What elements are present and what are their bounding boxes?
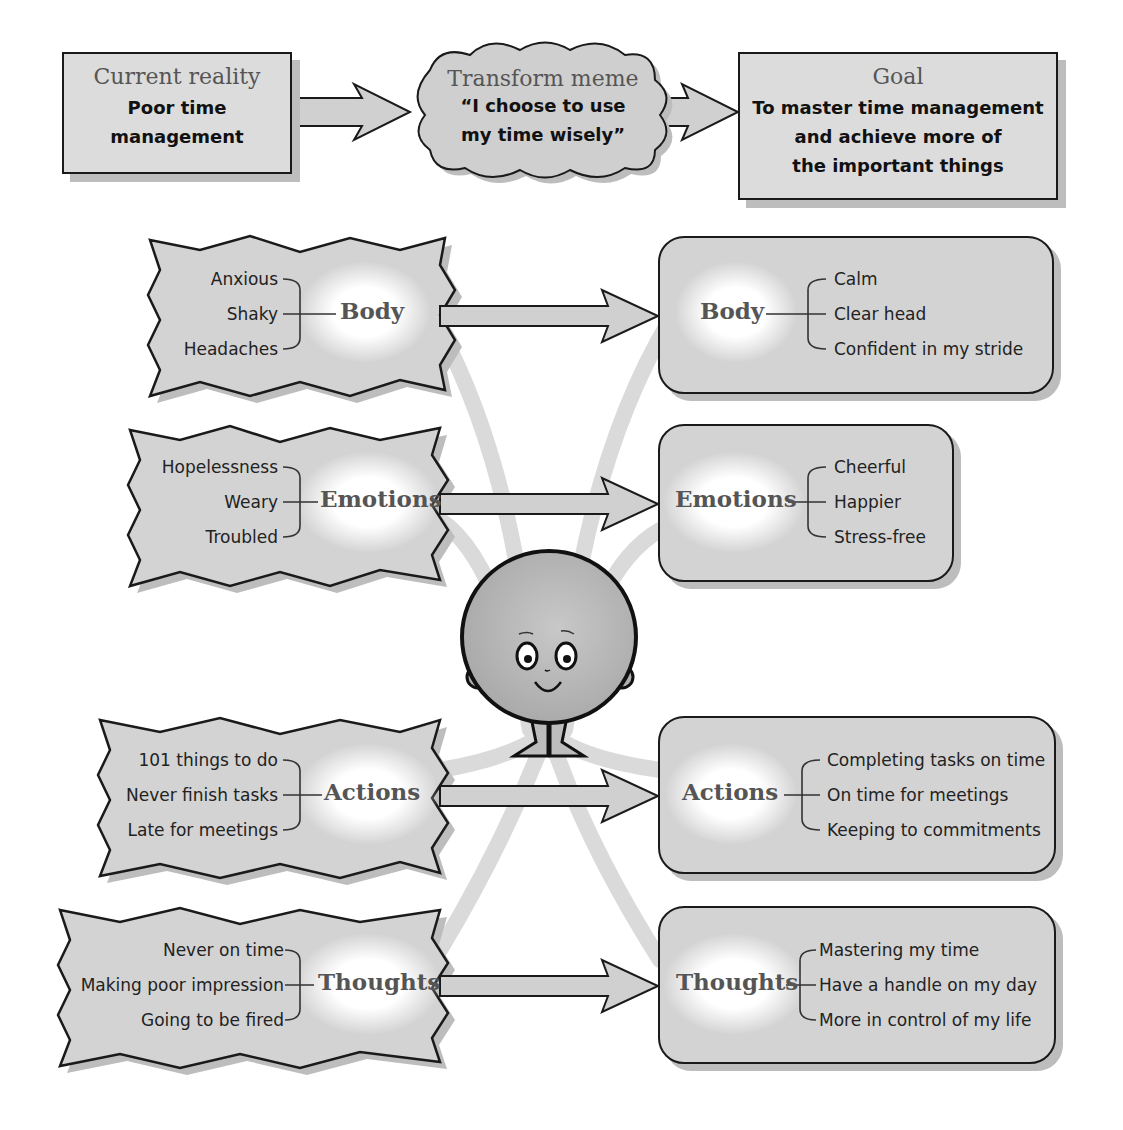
smiling-round-character-icon <box>0 0 1123 1130</box>
head-icon <box>462 551 636 723</box>
